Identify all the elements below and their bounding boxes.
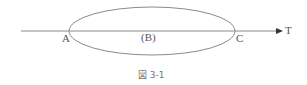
figure-caption: 図 3-1: [138, 71, 165, 80]
label-b: (B): [141, 32, 156, 43]
arrow-head-icon: [276, 28, 283, 34]
label-a: A: [62, 33, 70, 44]
diagram-canvas: A (B) C T 図 3-1: [0, 0, 307, 85]
label-t: T: [285, 25, 292, 36]
label-c: C: [236, 33, 243, 44]
